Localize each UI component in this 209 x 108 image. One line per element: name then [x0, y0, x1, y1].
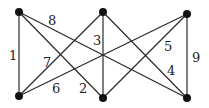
graph-svg: 1 2 3 4 5 6 7 8 9 — [0, 0, 209, 108]
edge-label-5: 5 — [164, 39, 172, 54]
edge-label-3: 3 — [93, 33, 101, 48]
edge-label-8: 8 — [48, 13, 56, 28]
bipartite-graph-diagram: 1 2 3 4 5 6 7 8 9 — [0, 0, 209, 108]
node-bottom-right — [183, 94, 191, 102]
edge-label-9: 9 — [192, 50, 200, 65]
edge-label-1: 1 — [9, 48, 17, 63]
edge-label-4: 4 — [167, 63, 175, 78]
node-bottom-middle — [99, 94, 107, 102]
node-top-right — [183, 10, 191, 18]
edge-label-6: 6 — [52, 81, 60, 96]
node-top-left — [15, 8, 23, 16]
edge-label-7: 7 — [43, 55, 51, 70]
edge-label-2: 2 — [79, 81, 87, 96]
node-bottom-left — [15, 92, 23, 100]
node-top-middle — [99, 8, 107, 16]
